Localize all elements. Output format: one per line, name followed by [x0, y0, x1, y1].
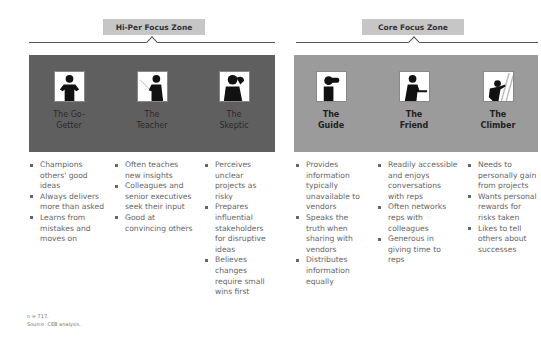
trait-item: Prepares influential stakeholders for di… [204, 202, 276, 255]
trait-item: Generous in giving time to reps [377, 234, 459, 266]
trait-item: Champions others' good ideas [29, 160, 105, 192]
trait-item: Often networks reps with colleagues [377, 202, 459, 234]
persona-name: TheFriend [400, 109, 429, 131]
trait-item: Believes changes require small wins firs… [204, 255, 276, 297]
trait-item: Wants personal rewards for risks taken [467, 192, 541, 224]
trait-item: Speaks the truth when sharing with vendo… [295, 213, 363, 255]
trait-item: Provides information typically unavailab… [295, 160, 363, 213]
persona-name: TheSkeptic [219, 109, 248, 131]
hands-on-hips-person-icon [54, 71, 85, 102]
persona-name: TheTeacher [136, 109, 167, 131]
persona-name: TheGuide [318, 109, 344, 131]
sample-size-note: n = 717. [27, 313, 49, 319]
core-zone-panel: TheGuide TheFriend TheClimber [294, 55, 538, 152]
head-scratching-person-icon [219, 71, 250, 102]
hi-per-focus-zone-label: Hi-Per Focus Zone [103, 19, 205, 35]
hi-per-zone-caret-icon [146, 36, 157, 47]
skeptic-traits: Perceives unclear projects as risky Prep… [204, 160, 276, 298]
guide-traits: Provides information typically unavailab… [295, 160, 363, 287]
persona-skeptic: TheSkeptic [193, 71, 275, 131]
persona-guide: TheGuide [290, 71, 372, 131]
trait-item: Always delivers more than asked [29, 192, 105, 213]
persona-teacher: TheTeacher [111, 71, 193, 131]
handshake-person-icon [399, 71, 430, 102]
ladder-climbing-person-icon [483, 71, 514, 102]
go-getter-traits: Champions others' good ideas Always deli… [29, 160, 105, 245]
persona-name: TheClimber [481, 109, 516, 131]
climber-traits: Needs to personally gain from projects W… [467, 160, 541, 255]
trait-item: Needs to personally gain from projects [467, 160, 541, 192]
trait-item: Likes to tell others about successes [467, 224, 541, 256]
trait-item: Often teaches new insights [114, 160, 196, 181]
source-note: Source: CEB analysis. [27, 321, 81, 327]
pointer-teaching-person-icon [137, 71, 168, 102]
trait-item: Good at convincing others [114, 213, 196, 234]
trait-item: Perceives unclear projects as risky [204, 160, 276, 202]
core-focus-zone-label: Core Focus Zone [362, 19, 464, 35]
persona-name: The Go-Getter [53, 109, 85, 131]
binoculars-person-icon [316, 71, 347, 102]
trait-item: Colleagues and senior executives seek th… [114, 181, 196, 213]
persona-go-getter: The Go-Getter [28, 71, 110, 131]
core-zone-caret-icon [408, 36, 419, 47]
friend-traits: Readily accessible and enjoys conversati… [377, 160, 459, 266]
persona-climber: TheClimber [457, 71, 539, 131]
teacher-traits: Often teaches new insights Colleagues an… [114, 160, 196, 234]
hi-per-zone-panel: The Go-Getter TheTeacher TheSkeptic [29, 55, 275, 152]
trait-item: Learns from mistakes and moves on [29, 213, 105, 245]
persona-friend: TheFriend [373, 71, 455, 131]
trait-item: Readily accessible and enjoys conversati… [377, 160, 459, 202]
trait-item: Distributes information equally [295, 255, 363, 287]
